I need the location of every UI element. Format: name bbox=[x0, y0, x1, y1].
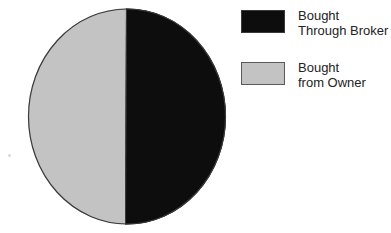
pie-chart-graphic bbox=[27, 8, 227, 225]
legend-swatch-bought-through-broker bbox=[241, 10, 285, 33]
pie-chart-figure: Bought Through Broker Bought from Owner bbox=[0, 0, 391, 233]
pie-svg bbox=[27, 8, 227, 225]
legend-label-line2: Through Broker bbox=[298, 24, 388, 39]
legend-item-bought-through-broker: Bought Through Broker bbox=[241, 9, 389, 38]
legend-label-line2: from Owner bbox=[298, 76, 366, 91]
legend-label-line1: Bought bbox=[298, 8, 339, 23]
legend-item-bought-from-owner: Bought from Owner bbox=[241, 61, 389, 90]
legend-label-bought-through-broker: Bought Through Broker bbox=[298, 9, 388, 38]
legend-label-line1: Bought bbox=[298, 60, 339, 75]
pie-slice-bought-through-broker bbox=[125, 8, 227, 225]
chart-legend: Bought Through Broker Bought from Owner bbox=[241, 9, 389, 90]
scan-artifact-speck bbox=[8, 154, 11, 157]
legend-label-bought-from-owner: Bought from Owner bbox=[298, 61, 366, 90]
legend-swatch-bought-from-owner bbox=[241, 62, 285, 85]
